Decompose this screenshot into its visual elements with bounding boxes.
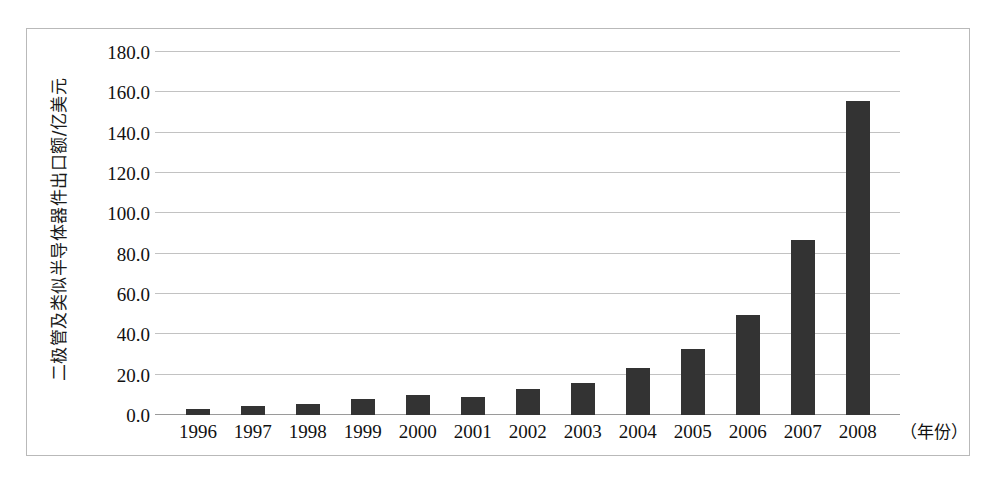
x-tick-label: 2004 [619, 421, 657, 444]
bar-2006 [736, 315, 760, 415]
x-tick-label: 2002 [509, 421, 547, 444]
y-tick-label: 180.0 [58, 43, 150, 62]
bar-1996 [186, 409, 210, 415]
x-tick-label: 1998 [289, 421, 327, 444]
x-tick-label: 2007 [784, 421, 822, 444]
y-tick-label: 20.0 [58, 365, 150, 384]
bar-series [155, 52, 900, 415]
bar-2002 [516, 389, 540, 415]
x-tick-label: 2008 [839, 421, 877, 444]
bar-1998 [296, 404, 320, 415]
bar-2000 [406, 395, 430, 415]
x-axis-unit-label: （年份） [900, 421, 968, 443]
bar-2004 [626, 368, 650, 415]
y-tick-label: 160.0 [58, 83, 150, 102]
bar-2005 [681, 349, 705, 415]
y-tick-label: 120.0 [58, 164, 150, 183]
y-tick-label: 40.0 [58, 325, 150, 344]
x-tick-label: 1996 [179, 421, 217, 444]
plot-area [155, 52, 900, 415]
x-tick-label: 2003 [564, 421, 602, 444]
y-axis-tick-labels: 0.020.040.060.080.0100.0120.0140.0160.01… [55, 52, 150, 415]
bar-2008 [846, 101, 870, 415]
y-tick-label: 140.0 [58, 123, 150, 142]
bar-2003 [571, 383, 595, 415]
bar-2001 [461, 397, 485, 415]
x-tick-label: 2001 [454, 421, 492, 444]
x-tick-label: 2000 [399, 421, 437, 444]
y-tick-label: 100.0 [58, 204, 150, 223]
y-tick-label: 60.0 [58, 285, 150, 304]
x-tick-label: 2006 [729, 421, 767, 444]
x-tick-label: 1999 [344, 421, 382, 444]
bar-1997 [241, 406, 265, 415]
y-tick-label: 80.0 [58, 244, 150, 263]
x-tick-label: 2005 [674, 421, 712, 444]
x-tick-label: 1997 [234, 421, 272, 444]
y-tick-label: 0.0 [58, 406, 150, 425]
bar-1999 [351, 399, 375, 415]
x-axis-tick-labels: 1996199719981999200020012002200320042005… [155, 421, 900, 449]
bar-2007 [791, 240, 815, 415]
